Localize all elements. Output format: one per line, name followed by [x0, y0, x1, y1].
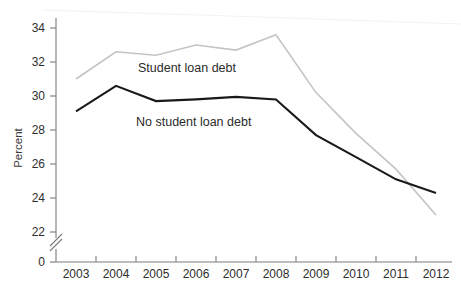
x-tick-label-2003: 2003 [63, 267, 90, 281]
scan-artifact-line [44, 10, 461, 24]
x-tick-label-2005: 2005 [143, 267, 170, 281]
x-tick-marks [96, 256, 416, 262]
y-tick-label-30: 30 [32, 89, 46, 103]
x-tick-label-2009: 2009 [303, 267, 330, 281]
y-axis-break-icon [50, 232, 62, 262]
y-tick-label-22: 22 [32, 225, 46, 239]
y-tick-label-28: 28 [32, 123, 46, 137]
y-tick-label-24: 24 [32, 191, 46, 205]
series-label-no-student-loan-debt: No student loan debt [136, 115, 252, 129]
y-tick-label-0: 0 [38, 255, 45, 269]
chart-canvas: 34 32 30 28 26 24 22 0 Percent 2003 2004… [0, 0, 461, 290]
x-tick-label-2004: 2004 [103, 267, 130, 281]
x-tick-label-2006: 2006 [183, 267, 210, 281]
y-tick-marks [50, 28, 56, 262]
y-tick-label-32: 32 [32, 55, 46, 69]
x-tick-label-2010: 2010 [343, 267, 370, 281]
x-tick-label-2008: 2008 [263, 267, 290, 281]
y-tick-label-26: 26 [32, 157, 46, 171]
series-line-student-loan-debt [76, 35, 436, 215]
x-tick-label-2012: 2012 [423, 267, 450, 281]
line-chart: 34 32 30 28 26 24 22 0 Percent 2003 2004… [0, 0, 461, 290]
y-tick-label-34: 34 [32, 21, 46, 35]
series-label-student-loan-debt: Student loan debt [138, 61, 237, 75]
x-tick-label-2007: 2007 [223, 267, 250, 281]
series-line-no-student-loan-debt [76, 86, 436, 193]
y-axis-title: Percent [12, 127, 24, 167]
x-tick-label-2011: 2011 [383, 267, 409, 281]
